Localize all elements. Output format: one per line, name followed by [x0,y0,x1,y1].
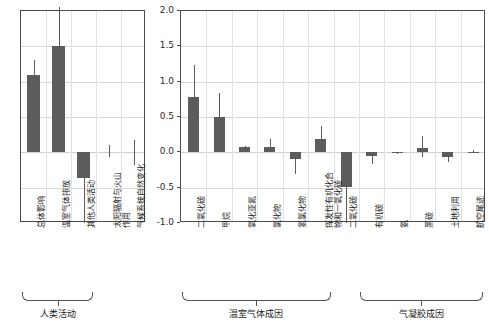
category-label: 黑碳 [425,212,434,228]
bracket-stem [256,301,257,306]
category-label: 二氧化碳 [197,196,206,228]
category-label: 温室气体排放 [62,180,71,228]
error-bar [109,145,110,157]
error-bar [219,93,220,133]
error-bar [134,140,135,165]
bracket-stem [421,301,422,306]
group-bracket [360,292,483,301]
error-bar [346,161,347,223]
vertical-gridline [46,11,47,221]
category-label: 土地利用 [451,196,460,228]
y-axis-tick-label: 0.5 [148,112,174,121]
bar [77,152,90,178]
error-bar [448,154,449,162]
error-bar [245,146,246,152]
error-bar [321,126,322,150]
category-label: 二氧化碳 [349,196,358,228]
category-label: 甲烷 [222,212,231,228]
category-label: 氯化物 [273,204,282,228]
category-label: 氨 [400,220,409,228]
category-label: 气候系统自然变化 [137,164,146,228]
group-bracket [22,292,93,301]
vertical-gridline [206,11,207,221]
y-axis-tick-label: 0.0 [148,147,174,156]
error-bar [34,60,35,95]
vertical-gridline [359,11,360,221]
vertical-gridline [461,11,462,221]
category-label: 太阳辐射与火山作用 [113,170,131,228]
bracket-stem [58,301,59,306]
error-bar [270,139,271,152]
gridline [181,46,484,47]
group-label: 人类活动 [0,307,123,320]
gridline [181,152,484,153]
error-bar [473,150,474,152]
category-label: 氧化亚氮 [248,196,257,228]
y-axis-tick-label: 1.0 [148,77,174,86]
y-axis-tick-label: -0.5 [148,183,174,192]
error-bar [84,178,85,223]
error-bar [372,153,373,164]
category-label: 氢氯化物 [298,196,307,228]
vertical-gridline [435,11,436,221]
category-label: 总体影响 [37,196,46,228]
vertical-gridline [232,11,233,221]
vertical-gridline [71,11,72,221]
gridline [21,46,144,47]
gridline [181,82,484,83]
category-label: 其他人类活动 [87,180,96,228]
y-axis-tick-mark [177,222,180,223]
radiative-forcing-figure: 2.01.51.00.50.0-0.5-1.0 总体影响温室气体排放其他人类活动… [0,0,489,329]
group-label: 气凝胶成因 [330,307,489,320]
category-label: 航空尾迹 [476,196,485,228]
y-axis-tick-label: 2.0 [148,6,174,15]
vertical-gridline [283,11,284,221]
vertical-gridline [410,11,411,221]
gridline [181,117,484,118]
vertical-gridline [257,11,258,221]
vertical-gridline [308,11,309,221]
vertical-gridline [96,11,97,221]
group-bracket [182,292,331,301]
error-bar [194,65,195,116]
vertical-gridline [384,11,385,221]
category-label: 挥发性有机化合物和一氧化碳 [325,170,343,228]
error-bar [295,154,296,174]
category-label: 有机碳 [375,204,384,228]
error-bar [397,153,398,154]
y-axis-tick-label: 1.5 [148,41,174,50]
y-axis-tick-label: -1.0 [148,218,174,227]
error-bar [422,136,423,157]
error-bar [59,7,60,81]
